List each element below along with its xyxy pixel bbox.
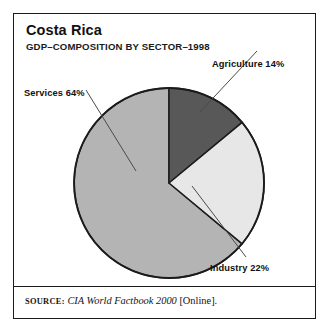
slice-label-industry: Industry 22%: [210, 263, 269, 273]
source-medium: [Online].: [179, 295, 217, 306]
source-work-title: CIA World Factbook 2000: [67, 295, 176, 306]
source-kicker: SOURCE:: [25, 297, 65, 306]
figure-frame: Costa Rica GDP–COMPOSITION BY SECTOR–199…: [13, 13, 316, 319]
source-note: SOURCE: CIA World Factbook 2000 [Online]…: [25, 295, 217, 306]
slice-label-agriculture: Agriculture 14%: [212, 59, 284, 69]
source-divider: [14, 286, 315, 287]
pie-chart: Agriculture 14% Services 64% Industry 22…: [14, 14, 317, 320]
slice-label-services: Services 64%: [24, 88, 85, 98]
